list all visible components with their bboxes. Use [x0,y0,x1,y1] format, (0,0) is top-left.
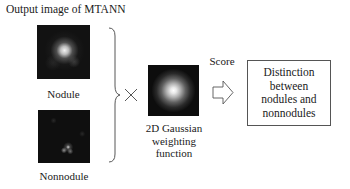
nodule-output-image [37,25,90,79]
gaussian-weighting-image [148,65,199,116]
gaussian-label-line-3: function [138,147,210,160]
multiply-icon [124,88,138,102]
nonnodule-output-image [38,110,90,163]
result-line-3: nodules and [261,93,316,107]
result-box: Distinction between nodules and nonnodul… [247,60,331,126]
nodule-label: Nodule [37,88,90,100]
result-line-1: Distinction [261,66,316,80]
score-label: Score [205,55,239,67]
arrow-right-icon [212,80,234,105]
result-line-2: between [261,80,316,94]
gaussian-label-line-2: weighting [138,135,210,148]
gaussian-label: 2D Gaussian weighting function [138,122,210,160]
result-line-4: nonnodules [261,107,316,121]
curly-brace-icon [106,26,122,166]
diagram-title: Output image of MTANN [6,3,126,15]
nonnodule-label: Nonnodule [30,170,98,182]
gaussian-label-line-1: 2D Gaussian [138,122,210,135]
